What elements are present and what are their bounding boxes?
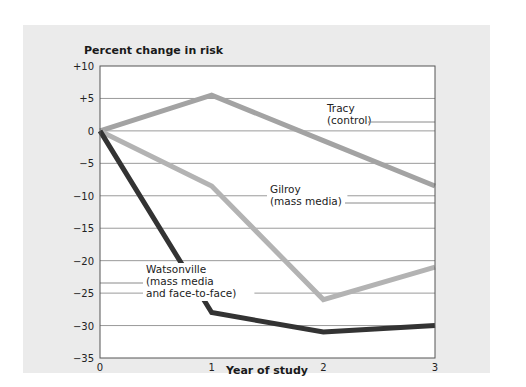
series-annotation-line: (mass media bbox=[146, 275, 214, 287]
x-tick-label: 2 bbox=[320, 362, 326, 373]
series-annotation-line: Gilroy bbox=[270, 183, 301, 195]
x-tick-label: 3 bbox=[432, 362, 438, 373]
y-tick-label: −25 bbox=[73, 288, 94, 299]
y-tick-label: −5 bbox=[79, 158, 94, 169]
x-tick-label: 1 bbox=[208, 362, 214, 373]
y-tick-label: −15 bbox=[73, 223, 94, 234]
series-annotation-line: (mass media) bbox=[270, 195, 342, 207]
y-tick-label: −35 bbox=[73, 353, 94, 364]
y-tick-label: +10 bbox=[73, 61, 94, 72]
y-tick-label: +5 bbox=[79, 93, 94, 104]
series-annotation-line: and face-to-face) bbox=[146, 287, 236, 299]
chart: Tracy(control)Gilroy(mass media)Watsonvi… bbox=[0, 0, 526, 387]
x-axis-label: Year of study bbox=[225, 364, 308, 377]
y-tick-label: −30 bbox=[73, 321, 94, 332]
x-tick-label: 0 bbox=[97, 362, 103, 373]
y-tick-label: 0 bbox=[88, 126, 94, 137]
series-annotation-line: Tracy bbox=[326, 102, 355, 114]
series-annotation-line: Watsonville bbox=[146, 263, 206, 275]
y-axis-label: Percent change in risk bbox=[84, 44, 224, 57]
y-tick-label: −20 bbox=[73, 256, 94, 267]
y-tick-label: −10 bbox=[73, 191, 94, 202]
series-annotation-line: (control) bbox=[327, 114, 372, 126]
